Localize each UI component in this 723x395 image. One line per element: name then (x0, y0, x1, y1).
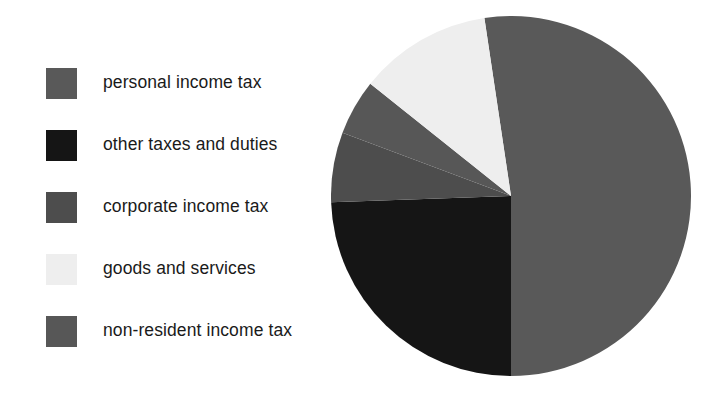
legend-swatch-goods-and-services (46, 254, 77, 285)
legend-item-personal-income-tax: personal income tax (46, 52, 326, 114)
pie-slice-group (331, 16, 691, 376)
legend-item-non-resident-income-tax: non-resident income tax (46, 300, 326, 362)
legend-label-non-resident-income-tax: non-resident income tax (103, 321, 292, 340)
pie-slice-other-taxes-and-duties (331, 196, 511, 376)
pie-slice-personal-income-tax (484, 16, 691, 376)
legend-item-goods-and-services: goods and services (46, 238, 326, 300)
pie-chart-graphic (331, 16, 692, 378)
legend-label-corporate-income-tax: corporate income tax (103, 197, 268, 216)
pie-chart-figure: personal income tax other taxes and duti… (0, 0, 723, 395)
legend-swatch-other-taxes-and-duties (46, 130, 77, 161)
pie-svg (331, 16, 692, 378)
legend-item-other-taxes-and-duties: other taxes and duties (46, 114, 326, 176)
legend-label-goods-and-services: goods and services (103, 259, 256, 278)
legend-label-other-taxes-and-duties: other taxes and duties (103, 135, 277, 154)
legend-swatch-personal-income-tax (46, 68, 77, 99)
legend-label-personal-income-tax: personal income tax (103, 73, 262, 92)
legend-swatch-corporate-income-tax (46, 192, 77, 223)
legend-swatch-non-resident-income-tax (46, 316, 77, 347)
legend-item-corporate-income-tax: corporate income tax (46, 176, 326, 238)
chart-legend: personal income tax other taxes and duti… (46, 52, 326, 362)
